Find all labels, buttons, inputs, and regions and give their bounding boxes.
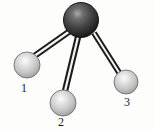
bond-central-2	[65, 37, 78, 91]
bond-central-1	[33, 31, 70, 57]
molecule-figure: 1 2 3	[0, 0, 154, 130]
atom-label-2: 2	[58, 116, 64, 128]
atom-1-sphere	[14, 52, 40, 78]
atom-group	[14, 3, 138, 117]
molecule-svg-canvas	[0, 0, 154, 130]
atom-label-3: 3	[124, 96, 130, 108]
atom-label-1: 1	[21, 82, 27, 94]
atom-3-sphere	[114, 70, 138, 94]
central-atom-sphere	[64, 3, 99, 38]
atom-2-sphere	[50, 90, 76, 116]
bond-central-3	[94, 33, 120, 74]
bond-group	[33, 31, 120, 91]
